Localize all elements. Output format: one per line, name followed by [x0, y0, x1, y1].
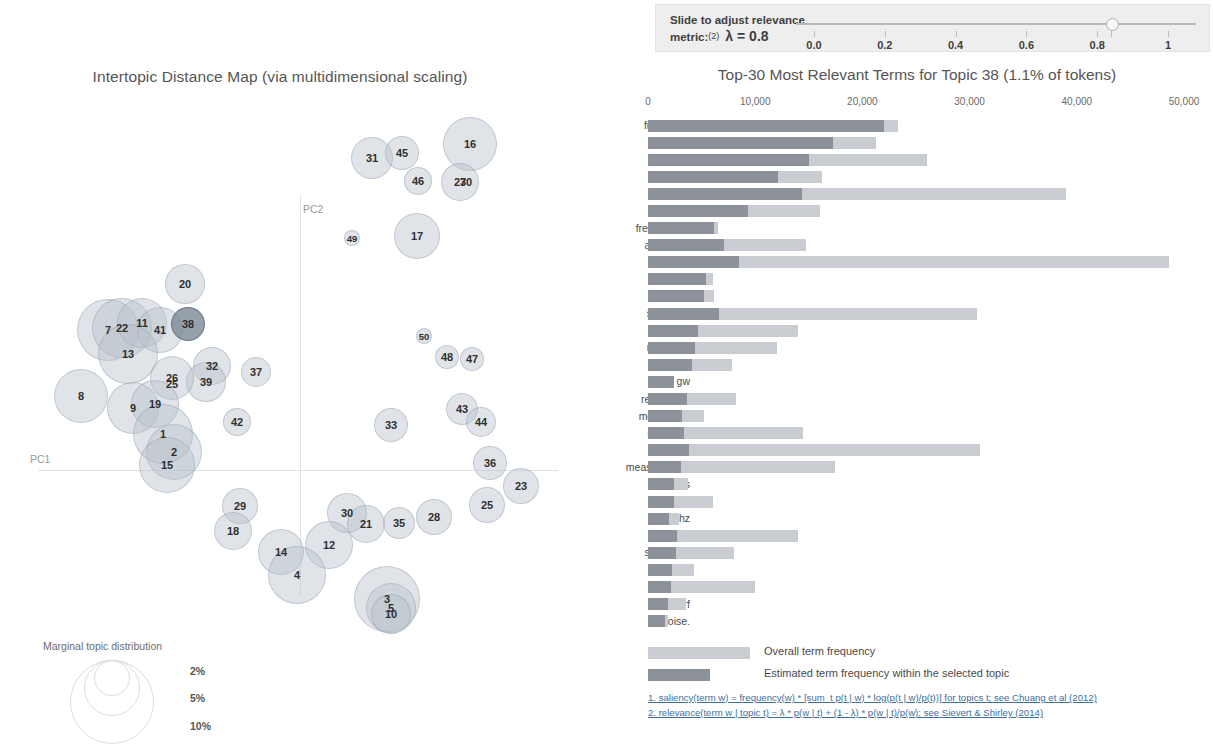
bar-overall-frequency — [648, 444, 980, 456]
bar-row[interactable]: power — [620, 186, 1214, 203]
pc1-axis-label: PC1 — [30, 453, 50, 465]
bar-overall-frequency — [648, 205, 820, 217]
footnote-relevance[interactable]: 2. relevance(term w | topic t) = λ * p(w… — [648, 705, 1214, 720]
bar-row[interactable]: sensitivity — [620, 545, 1214, 562]
bar-overall-frequency — [648, 496, 713, 508]
topic-label-49: 49 — [347, 233, 358, 244]
footnote-saliency[interactable]: 1. saliency(term w) = frequency(w) * [su… — [648, 690, 1214, 705]
bar-row[interactable]: resonance — [620, 392, 1214, 409]
bar-overall-frequency — [648, 376, 674, 388]
bar-row[interactable]: mode — [620, 169, 1214, 186]
bar-overall-frequency — [648, 137, 876, 149]
pc2-axis-label: PC2 — [303, 203, 323, 215]
topic-label-42: 42 — [231, 416, 243, 428]
topic-label-44: 44 — [475, 416, 487, 428]
topic-label-11: 11 — [136, 317, 148, 329]
bar-row[interactable]: response — [620, 340, 1214, 357]
topic-label-46: 46 — [412, 175, 424, 187]
topic-label-25: 25 — [166, 378, 178, 390]
map-vertical-axis — [300, 195, 301, 595]
bar-row[interactable]: gw — [620, 374, 1214, 391]
bar-row[interactable]: fourier — [620, 323, 1214, 340]
bar-row[interactable]: signals — [620, 289, 1214, 306]
bar-row[interactable]: spectrum — [620, 306, 1214, 323]
bar-row[interactable]: modes — [620, 203, 1214, 220]
marginal-ring-2pct — [94, 660, 130, 696]
bar-topic-frequency — [648, 256, 739, 268]
bar-row[interactable]: frequency — [620, 118, 1214, 135]
marginal-label-2pct: 2% — [190, 665, 205, 677]
bar-overall-frequency — [648, 359, 732, 371]
slider-handle[interactable] — [1106, 18, 1119, 31]
bar-row[interactable]: filter — [620, 357, 1214, 374]
legend-swatch-overall — [648, 647, 750, 659]
bar-row[interactable]: measurement — [620, 460, 1214, 477]
barchart-title: Top-30 Most Relevant Terms for Topic 38 … — [620, 66, 1214, 84]
bar-row[interactable]: rf — [620, 597, 1214, 614]
bar-topic-frequency — [648, 581, 671, 593]
bar-row[interactable]: shift — [620, 580, 1214, 597]
bar-row[interactable]: voltage — [620, 562, 1214, 579]
bar-row[interactable]: noise. — [620, 614, 1214, 631]
x-tick-40000: 40,000 — [1062, 96, 1093, 107]
bar-topic-frequency — [648, 410, 682, 422]
bar-row[interactable]: phase — [620, 255, 1214, 272]
bar-row[interactable]: spectral — [620, 443, 1214, 460]
term-label[interactable]: hz — [679, 512, 690, 524]
bar-overall-frequency — [648, 427, 803, 439]
bar-row[interactable]: pulses — [620, 477, 1214, 494]
relevance-slider[interactable]: 0.00.20.40.60.81 — [796, 11, 1196, 51]
topic-label-16: 16 — [464, 138, 476, 150]
bar-row[interactable]: signal — [620, 152, 1214, 169]
slider-label: Slide to adjust relevance metric:(2)λ = … — [670, 12, 805, 45]
bar-row[interactable]: pulse — [620, 272, 1214, 289]
bar-topic-frequency — [648, 171, 778, 183]
bar-topic-frequency — [648, 273, 706, 285]
bar-overall-frequency — [648, 120, 898, 132]
bar-overall-frequency — [648, 290, 714, 302]
slider-tick-0.0 — [814, 31, 815, 37]
topic-label-30: 30 — [460, 176, 472, 188]
bar-row[interactable]: detection — [620, 426, 1214, 443]
bar-row[interactable]: frequencies — [620, 221, 1214, 238]
slider-label-line2: metric: — [670, 31, 708, 43]
bar-row[interactable]: amplitude — [620, 238, 1214, 255]
bar-overall-frequency — [648, 308, 977, 320]
topic-label-31: 31 — [366, 152, 378, 164]
bar-overall-frequency — [648, 615, 668, 627]
bar-overall-frequency — [648, 393, 736, 405]
topic-label-14: 14 — [275, 546, 287, 558]
x-tick-10000: 10,000 — [740, 96, 771, 107]
topic-label-37: 37 — [250, 366, 262, 378]
topic-label-17: 17 — [411, 230, 423, 242]
bar-row[interactable]: hz — [620, 511, 1214, 528]
topic-label-28: 28 — [428, 511, 440, 523]
bar-row[interactable]: output — [620, 528, 1214, 545]
bar-topic-frequency — [648, 478, 674, 490]
slider-tick-label-0.4: 0.4 — [948, 39, 963, 51]
intertopic-distance-map-panel: Intertopic Distance Map (via multidimens… — [0, 0, 620, 733]
topic-label-25: 25 — [481, 499, 493, 511]
bar-overall-frequency — [648, 273, 713, 285]
topic-label-19: 19 — [149, 398, 161, 410]
topic-label-15: 15 — [161, 459, 173, 471]
term-label[interactable]: gw — [677, 375, 690, 387]
topic-label-8: 8 — [78, 390, 84, 402]
bar-overall-frequency — [648, 530, 798, 542]
bar-row[interactable]: noise — [620, 135, 1214, 152]
bar-overall-frequency — [648, 513, 679, 525]
bar-topic-frequency — [648, 290, 704, 302]
topic-label-50: 50 — [419, 331, 430, 342]
topic-label-48: 48 — [441, 351, 453, 363]
slider-tick-1 — [1168, 31, 1169, 37]
map-canvas[interactable]: PC1 PC2 16314546273049172072211413813323… — [0, 95, 620, 615]
slider-track[interactable] — [796, 23, 1196, 25]
bar-row[interactable]: modulation — [620, 409, 1214, 426]
bar-overall-frequency — [648, 256, 1169, 268]
bar-overall-frequency — [648, 478, 688, 490]
relevance-slider-panel[interactable]: Slide to adjust relevance metric:(2)λ = … — [655, 4, 1210, 52]
bar-overall-frequency — [648, 598, 686, 610]
topic-label-12: 12 — [323, 539, 335, 551]
bar-overall-frequency — [648, 410, 704, 422]
bar-row[interactable]: delay — [620, 494, 1214, 511]
